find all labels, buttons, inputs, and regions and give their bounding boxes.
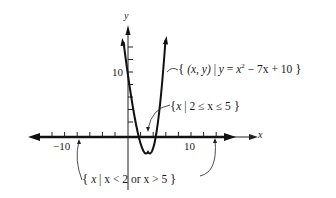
x-tick-label-10: 10 bbox=[184, 141, 195, 152]
interval-leader-arrow-icon bbox=[146, 127, 150, 132]
outside-set-label: { x | x < 2 or x > 5 } bbox=[82, 172, 176, 186]
y-axis-arrow-icon bbox=[126, 25, 131, 35]
function-set-label: { (x, y) | y = x2 − 7x + 10 } bbox=[178, 62, 301, 76]
x-tick-label-neg10: −10 bbox=[53, 141, 70, 152]
function-leader bbox=[167, 68, 178, 72]
outside-leader-right bbox=[200, 140, 215, 176]
graph-canvas bbox=[0, 0, 336, 198]
outside-leader-right-arrow-icon bbox=[213, 138, 217, 143]
x-axis-label: x bbox=[258, 130, 262, 140]
parabola-right-arrow-icon bbox=[163, 36, 168, 45]
y-axis-label: y bbox=[124, 11, 128, 21]
y-tick-label-10: 10 bbox=[112, 67, 123, 78]
outside-leader-left-arrow-icon bbox=[77, 139, 81, 144]
right-arrow-icon bbox=[224, 133, 236, 141]
parabola-left-arrow-icon bbox=[121, 38, 126, 46]
left-arrow-icon bbox=[28, 133, 40, 141]
interval-set-label: {x | 2 ≤ x ≤ 5 } bbox=[170, 99, 240, 113]
x-axis-arrow-icon bbox=[249, 134, 258, 140]
